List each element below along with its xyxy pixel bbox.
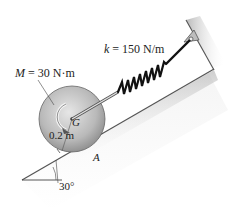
moment-label: M = 30 N·m <box>15 67 75 79</box>
moment-value: = 30 N·m <box>25 66 75 80</box>
moment-symbol: M <box>15 66 25 80</box>
diagram-svg <box>0 0 234 216</box>
stiffness-value: = 150 N/m <box>109 42 164 56</box>
contact-point-label: A <box>93 152 100 163</box>
radius-label: 0.2 m <box>49 130 74 141</box>
center-of-mass-label: G <box>72 117 80 128</box>
spring <box>118 62 166 94</box>
end-wall <box>186 16 226 70</box>
diagram-canvas: M = 30 N·m k = 150 N/m G 0.2 m A 30° <box>0 0 234 216</box>
incline-angle-label: 30° <box>59 181 74 192</box>
spring-stiffness-label: k = 150 N/m <box>104 43 164 55</box>
